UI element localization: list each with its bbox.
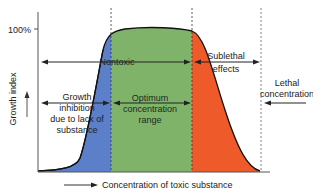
sublethal-zone (192, 0, 262, 172)
tolerance-diagram: Growth index 100% Nontoxic Sublethal eff… (0, 0, 313, 192)
inhibition-label-3: due to lack of (50, 114, 104, 124)
nontoxic-label: Nontoxic (99, 57, 135, 67)
arrowhead-left-icon (264, 101, 271, 106)
y-axis-label: Growth index (8, 72, 18, 126)
inhibition-label-1: Growth (62, 92, 91, 102)
optimum-zone (111, 0, 192, 172)
inhibition-zone (38, 0, 111, 172)
x-axis-label: Concentration of toxic substance (102, 180, 233, 190)
arrow-right-icon (91, 183, 98, 188)
optimum-label-1: Optimum (132, 93, 169, 103)
y-tick-label: 100% (8, 25, 31, 35)
arrowhead-right-icon (253, 60, 260, 65)
sublethal-label-1: Sublethal (207, 51, 245, 61)
arrow-up-icon (25, 91, 30, 98)
optimum-label-2: concentration (123, 104, 177, 114)
sublethal-label-2: effects (213, 64, 240, 74)
arrowhead-left-icon (41, 101, 48, 106)
lethal-label-1: Lethal (275, 78, 300, 88)
inhibition-label-4: substance (56, 125, 97, 135)
optimum-label-3: range (138, 115, 161, 125)
inhibition-label-2: inhibition (59, 103, 95, 113)
lethal-label-2: concentration (260, 89, 313, 99)
arrowhead-left-icon (41, 60, 48, 65)
